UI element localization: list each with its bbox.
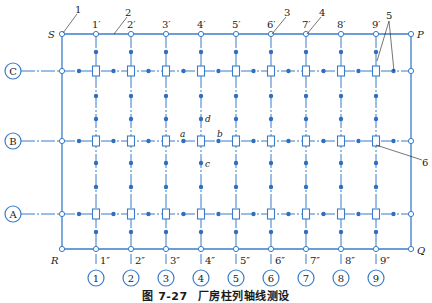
control-point-bottom-9 [373, 246, 378, 251]
axis-stake-dot [164, 161, 168, 165]
top-point-label-8: 8′ [337, 19, 346, 30]
callout-leader-2 [114, 17, 127, 34]
control-point-left-A [59, 211, 64, 216]
top-point-label-7: 7′ [302, 19, 311, 30]
column-footing-B6 [268, 136, 275, 146]
axis-stake-dot [356, 139, 360, 143]
bottom-point-label-1: 1″ [100, 255, 110, 266]
axis-stake-dot [269, 94, 273, 98]
axis-stake-dot [164, 50, 168, 54]
axis-stake-dot [111, 69, 115, 73]
figure-caption: 图 7-27厂房柱列轴线测设 [0, 287, 432, 303]
axis-stake-dot [181, 212, 185, 216]
axis-stake-dot [77, 139, 81, 143]
axis-stake-dot [94, 185, 98, 189]
control-point-right-A [408, 211, 413, 216]
control-point-q [408, 246, 413, 251]
axis-stake-dot [304, 94, 308, 98]
axis-stake-dot [374, 50, 378, 54]
column-axis-label-2: 2 [128, 273, 134, 284]
axis-stake-dot [77, 212, 81, 216]
axis-stake-dot [164, 117, 168, 121]
column-footing-A2 [128, 209, 135, 219]
bottom-point-label-8: 8″ [345, 255, 355, 266]
bottom-point-label-6: 6″ [275, 255, 285, 266]
top-point-label-3: 3′ [162, 19, 171, 30]
column-footing-B4 [198, 136, 205, 146]
axis-stake-dot [216, 212, 220, 216]
column-footing-B3 [163, 136, 170, 146]
axis-stake-dot [286, 212, 290, 216]
axis-stake-dot [199, 230, 203, 234]
corner-label-p: P [416, 29, 424, 40]
axis-stake-dot [94, 117, 98, 121]
column-footing-A6 [268, 209, 275, 219]
column-footing-C3 [163, 66, 170, 76]
axis-stake-dot [251, 212, 255, 216]
axis-stake-dot [391, 139, 395, 143]
column-axis-label-1: 1 [93, 273, 99, 284]
row-axis-label-C: C [9, 66, 17, 77]
callout-leader-6 [376, 145, 422, 160]
column-axis-label-4: 4 [198, 273, 204, 284]
axis-stake-dot [286, 69, 290, 73]
column-footing-C5 [233, 66, 240, 76]
top-point-label-9: 9′ [372, 19, 381, 30]
column-footing-C4 [198, 66, 205, 76]
axis-stake-dot [269, 117, 273, 121]
axis-stake-dot [129, 185, 133, 189]
figure-number: 图 7-27 [142, 287, 187, 303]
callout-number-1: 1 [75, 4, 81, 15]
axis-stake-dot [234, 117, 238, 121]
column-footing-A5 [233, 209, 240, 219]
bottom-point-label-9: 9″ [380, 255, 390, 266]
axis-stake-dot [199, 94, 203, 98]
control-point-bottom-2 [128, 246, 133, 251]
column-axis-label-6: 6 [268, 273, 274, 284]
axis-stake-dot [199, 117, 203, 121]
bottom-point-label-3: 3″ [170, 255, 180, 266]
bottom-point-label-5: 5″ [240, 255, 250, 266]
point-label-a: a [180, 129, 185, 139]
figure-title: 厂房柱列轴线测设 [198, 287, 290, 303]
column-footing-C7 [303, 66, 310, 76]
axis-stake-dot [374, 117, 378, 121]
callout-number-2: 2 [125, 7, 131, 18]
column-footing-C1 [93, 66, 100, 76]
control-point-top-6 [268, 31, 273, 36]
axis-stake-dot [391, 69, 395, 73]
axis-stake-dot [339, 230, 343, 234]
axis-stake-dot [356, 212, 360, 216]
control-point-bottom-8 [338, 246, 343, 251]
axis-stake-dot [321, 139, 325, 143]
bottom-point-label-7: 7″ [310, 255, 320, 266]
control-point-bottom-4 [198, 246, 203, 251]
axis-stake-dot [164, 230, 168, 234]
column-footing-A1 [93, 209, 100, 219]
axis-stake-dot [94, 50, 98, 54]
column-footing-A8 [338, 209, 345, 219]
top-point-label-4: 4′ [197, 19, 206, 30]
column-footing-B5 [233, 136, 240, 146]
axis-stake-dot [199, 185, 203, 189]
axis-stake-dot [129, 94, 133, 98]
axis-stake-dot [339, 94, 343, 98]
row-axis-label-A: A [8, 209, 17, 220]
control-point-top-3 [163, 31, 168, 36]
axis-stake-dot [391, 212, 395, 216]
column-footing-A7 [303, 209, 310, 219]
control-point-left-B [59, 138, 64, 143]
control-point-right-B [408, 138, 413, 143]
column-footing-B2 [128, 136, 135, 146]
axis-stake-dot [111, 212, 115, 216]
bottom-point-label-4: 4″ [205, 255, 215, 266]
column-axis-layout-diagram: 1′2′3′4′5′6′7′8′9′1″2″3″4″5″6″7″8″9″1234… [0, 0, 432, 303]
control-point-bottom-7 [303, 246, 308, 251]
callout-leaders [63, 14, 422, 160]
axis-stake-dot [286, 139, 290, 143]
control-point-top-8 [338, 31, 343, 36]
axis-stake-dot [146, 212, 150, 216]
column-footing-B9 [373, 136, 380, 146]
callout-number-6: 6 [422, 157, 428, 168]
column-axis-label-9: 9 [373, 273, 379, 284]
